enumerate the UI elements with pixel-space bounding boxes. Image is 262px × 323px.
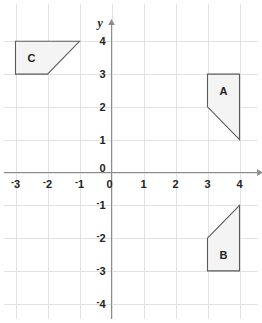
- x-tick-label: 3: [204, 178, 210, 190]
- plotted-shapes: ABC: [16, 41, 240, 271]
- y-tick-label: -1: [96, 198, 105, 211]
- y-tick-label: 4: [99, 35, 106, 47]
- y-axis-arrow-icon: [108, 19, 115, 25]
- coordinate-plane-svg: ABC -3-2-112341234-1-2-3-400 xy: [0, 0, 262, 323]
- x-tick-label: -2: [43, 177, 52, 190]
- y-tick-label: 3: [99, 68, 105, 80]
- shape-polygon-c: [16, 41, 80, 74]
- x-axis-arrow-icon: [257, 169, 262, 176]
- x-tick-label: 1: [140, 178, 146, 190]
- x-tick-label: 4: [236, 178, 243, 190]
- origin-label-y: 0: [99, 162, 105, 174]
- x-tick-label: -1: [75, 177, 84, 190]
- y-axis-label: y: [96, 16, 104, 30]
- shape-polygon-b: [208, 205, 240, 271]
- y-tick-label: 1: [99, 134, 105, 146]
- y-tick-label: -3: [96, 264, 105, 277]
- coordinate-plane-figure: ABC -3-2-112341234-1-2-3-400 xy: [0, 0, 262, 323]
- x-tick-label: 2: [172, 178, 178, 190]
- x-tick-label: -3: [11, 177, 20, 190]
- shape-label-a: A: [220, 85, 228, 97]
- y-tick-label: -4: [96, 297, 106, 310]
- y-tick-label: -2: [96, 231, 105, 244]
- origin-label-x: 0: [106, 178, 112, 190]
- shape-label-c: C: [28, 52, 36, 64]
- shape-label-b: B: [220, 249, 228, 261]
- y-tick-label: 2: [99, 101, 105, 113]
